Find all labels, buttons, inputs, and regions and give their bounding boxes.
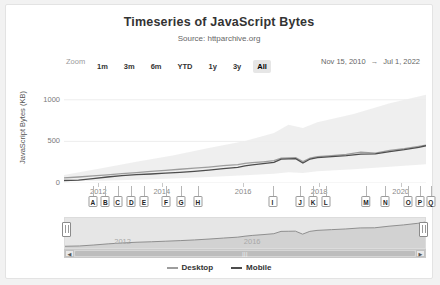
flag-o[interactable]: O — [404, 196, 413, 207]
flag-b[interactable]: B — [101, 196, 110, 207]
scroll-grip-icon: ||| — [242, 252, 247, 256]
flag-stem — [181, 186, 182, 196]
legend-swatch-icon — [231, 267, 242, 269]
x-tick-mark — [243, 183, 244, 187]
plot-area: JavaScript Bytes (KB) 05001000 201220142… — [6, 79, 434, 199]
flag-stem — [326, 186, 327, 196]
flag-stem — [385, 186, 386, 196]
legend: DesktopMobile — [6, 263, 432, 272]
range-band — [64, 95, 426, 182]
range-button-all[interactable]: All — [253, 60, 271, 73]
handle-grip-icon — [422, 225, 426, 233]
flag-a[interactable]: A — [88, 196, 97, 207]
navigator-year-label: 2016 — [244, 237, 261, 246]
flag-stem — [118, 186, 119, 196]
flag-series: ABCDEFGHIJKLMNOPQ — [64, 196, 426, 210]
legend-label: Desktop — [182, 263, 214, 272]
range-button-3y[interactable]: 3y — [229, 60, 245, 73]
flag-j[interactable]: J — [296, 196, 305, 207]
y-tick-label: 0 — [26, 178, 60, 187]
flag-k[interactable]: K — [309, 196, 318, 207]
flag-n[interactable]: N — [381, 196, 390, 207]
scroll-thumb[interactable]: ||| — [75, 251, 415, 256]
scroll-right-button[interactable]: ▶ — [416, 250, 425, 257]
flag-stem — [198, 186, 199, 196]
flag-stem — [408, 186, 409, 196]
x-tick-label: 2016 — [235, 187, 252, 196]
x-tick-mark — [401, 183, 402, 187]
navigator-left-handle[interactable] — [62, 222, 71, 237]
navigator[interactable]: 2012 2016 — [64, 217, 426, 249]
flag-f[interactable]: F — [162, 196, 171, 207]
flag-c[interactable]: C — [113, 196, 122, 207]
navigator-year-label: 2012 — [114, 237, 131, 246]
flag-i[interactable]: I — [268, 196, 277, 207]
x-tick-label: 2020 — [392, 187, 409, 196]
legend-item-mobile[interactable]: Mobile — [231, 263, 271, 272]
y-axis-ticks: 05001000 — [26, 79, 60, 179]
scroll-left-button[interactable]: ◀ — [65, 250, 74, 257]
flag-stem — [93, 186, 94, 196]
legend-item-desktop[interactable]: Desktop — [167, 263, 214, 272]
range-button-1y[interactable]: 1y — [205, 60, 221, 73]
navigator-scrollbar[interactable]: ◀ ||| ▶ — [64, 249, 426, 258]
flag-stem — [166, 186, 167, 196]
flag-stem — [313, 186, 314, 196]
flag-stem — [420, 186, 421, 196]
handle-grip-icon — [65, 225, 69, 233]
range-button-1m[interactable]: 1m — [93, 60, 112, 73]
navigator-right-handle[interactable] — [419, 222, 428, 237]
y-tick-label: 500 — [26, 136, 60, 145]
flag-m[interactable]: M — [361, 196, 370, 207]
legend-label: Mobile — [246, 263, 271, 272]
arrow-right-icon: → — [368, 57, 382, 66]
legend-swatch-icon — [167, 267, 178, 269]
chart-subtitle: Source: httparchive.org — [6, 34, 432, 43]
date-range: Nov 15, 2010 → Jul 1, 2022 — [321, 57, 420, 66]
x-tick-mark — [162, 183, 163, 187]
page-title: Timeseries of JavaScript Bytes — [6, 15, 432, 29]
range-button-3m[interactable]: 3m — [120, 60, 139, 73]
flag-g[interactable]: G — [176, 196, 185, 207]
flag-e[interactable]: E — [140, 196, 149, 207]
x-tick-mark — [319, 183, 320, 187]
range-button-ytd[interactable]: YTD — [174, 60, 197, 73]
x-tick-label: 2014 — [153, 187, 170, 196]
chart-card: Timeseries of JavaScript Bytes Source: h… — [5, 4, 433, 279]
x-tick-mark — [98, 183, 99, 187]
flag-stem — [300, 186, 301, 196]
timeseries-svg — [64, 79, 426, 183]
flag-stem — [431, 186, 432, 196]
flag-d[interactable]: D — [127, 196, 136, 207]
range-selector: Zoom 1m3m6mYTD1y3yAll Nov 15, 2010 → Jul… — [6, 55, 432, 71]
flag-h[interactable]: H — [193, 196, 202, 207]
flag-stem — [366, 186, 367, 196]
flag-l[interactable]: L — [321, 196, 330, 207]
date-to[interactable]: Jul 1, 2022 — [383, 57, 420, 66]
date-from[interactable]: Nov 15, 2010 — [321, 57, 366, 66]
zoom-label: Zoom — [66, 57, 85, 66]
y-tick-label: 1000 — [26, 95, 60, 104]
range-button-6m[interactable]: 6m — [147, 60, 166, 73]
flag-stem — [131, 186, 132, 196]
flag-stem — [144, 186, 145, 196]
flag-q[interactable]: Q — [426, 196, 435, 207]
flag-p[interactable]: P — [415, 196, 424, 207]
range-buttons: 1m3m6mYTD1y3yAll — [93, 55, 279, 69]
flag-stem — [105, 186, 106, 196]
series-canvas[interactable] — [64, 79, 426, 183]
flag-stem — [273, 186, 274, 196]
